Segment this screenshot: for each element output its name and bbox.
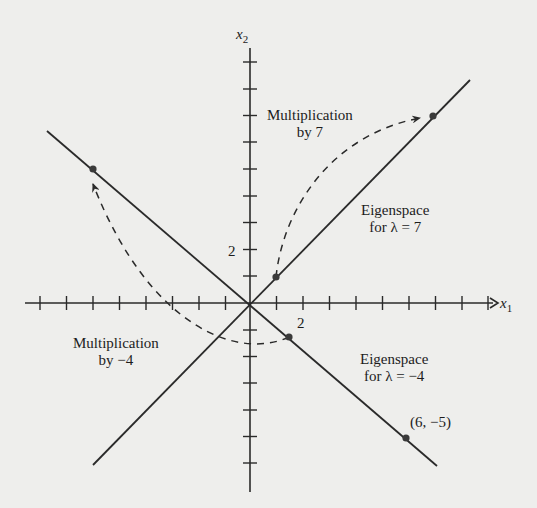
points [89,112,436,441]
annotation-multiplication-by-7: Multiplication by 7 [267,107,353,141]
x-axis [25,296,498,310]
diagram-graphics [0,0,537,508]
arc-multiplication-by-neg4 [93,184,289,344]
point-neg6-5 [89,165,96,172]
annotation-eigenspace-lambda-neg4: Eigenspace for λ = −4 [360,351,428,385]
point-6-neg5 [402,434,409,441]
annotation-multiplication-by-neg4: Multiplication by −4 [73,335,159,369]
eigenspace-line-lambda-neg4 [47,131,437,466]
point-1.5-neg1.25 [285,333,292,340]
point-1-1 [272,273,279,280]
x-tick-label-2: 2 [297,315,305,332]
y-axis-label: x2 [236,26,248,48]
y-axis [243,48,257,492]
arc-multiplication-by-7 [276,118,420,277]
y-tick-label-2: 2 [228,243,236,260]
point-7-7 [429,112,436,119]
x-axis-label: x1 [500,295,512,317]
eigenspace-diagram: x2 x1 2 2 Multiplication by 7 Eigenspace… [0,0,537,508]
point-label-6-neg5: (6, −5) [410,414,451,431]
annotation-eigenspace-lambda-7: Eigenspace for λ = 7 [361,202,429,236]
